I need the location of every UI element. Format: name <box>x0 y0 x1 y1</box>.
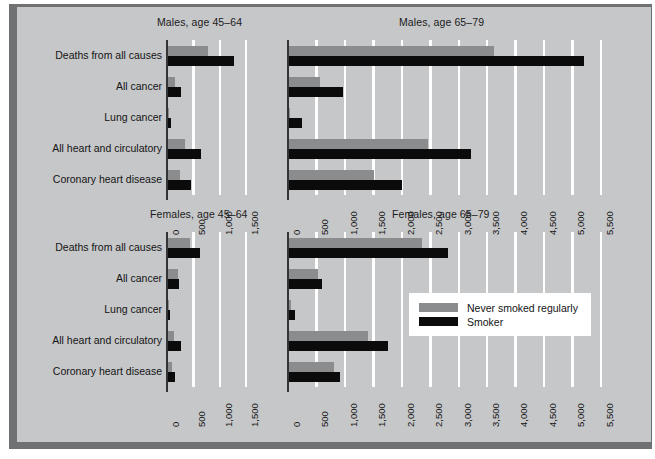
bar-smoker-males-45-64-3 <box>168 149 202 159</box>
x-tick-females-45-64-500: 500 <box>196 411 207 427</box>
x-tick-females-65-79-3500: 3,500 <box>490 403 501 427</box>
bar-never-smoked-males-45-64-2 <box>168 108 169 118</box>
bar-smoker-females-45-64-3 <box>168 341 181 351</box>
bar-group-males-45-64-0 <box>166 40 258 71</box>
bar-group-males-65-79-2 <box>287 102 614 133</box>
bar-group-males-65-79-3 <box>287 133 614 164</box>
bar-smoker-females-65-79-4 <box>289 372 340 382</box>
legend-swatch-icon-1 <box>419 317 458 326</box>
x-tick-females-65-79-500: 500 <box>319 411 330 427</box>
bar-never-smoked-males-65-79-1 <box>289 77 320 87</box>
chart-legend: Never smoked regularlySmoker <box>409 293 591 336</box>
bar-smoker-males-65-79-0 <box>289 56 585 66</box>
panel-title-males-65-79: Males, age 65–79 <box>399 16 484 28</box>
bar-smoker-males-65-79-2 <box>289 118 303 128</box>
bar-never-smoked-females-65-79-3 <box>289 331 369 341</box>
tickmark-males-65-79-0 <box>287 195 289 200</box>
panels-container: Males, age 45–64Deaths from all causesAl… <box>17 7 651 442</box>
bar-never-smoked-females-45-64-1 <box>168 269 178 279</box>
bar-group-males-65-79-1 <box>287 71 614 102</box>
bar-smoker-males-45-64-0 <box>168 56 235 66</box>
x-tick-females-65-79-3000: 3,000 <box>462 403 473 427</box>
bar-never-smoked-males-65-79-2 <box>289 108 291 118</box>
x-tick-females-45-64-1000: 1,000 <box>223 403 234 427</box>
panel-title-males-45-64: Males, age 45–64 <box>157 16 242 28</box>
bar-never-smoked-males-45-64-0 <box>168 46 208 56</box>
category-label-4: Coronary heart disease <box>53 173 162 185</box>
bar-never-smoked-females-45-64-2 <box>168 300 169 310</box>
bar-group-males-65-79-0 <box>287 40 614 71</box>
category-label-3: All heart and circulatory <box>52 334 162 346</box>
bar-group-females-45-64-2 <box>166 294 258 325</box>
bar-smoker-males-65-79-4 <box>289 180 403 190</box>
bar-smoker-females-45-64-2 <box>168 310 170 320</box>
category-label-0: Deaths from all causes <box>55 49 162 61</box>
legend-item-never-smoked-regularly: Never smoked regularly <box>419 301 578 314</box>
x-tick-females-65-79-1000: 1,000 <box>348 403 359 427</box>
legend-swatch-icon-0 <box>419 303 458 312</box>
category-label-4: Coronary heart disease <box>53 365 162 377</box>
bar-never-smoked-males-45-64-1 <box>168 77 175 87</box>
bar-never-smoked-females-45-64-0 <box>168 238 190 248</box>
bar-group-females-45-64-4 <box>166 356 258 387</box>
bar-smoker-females-65-79-2 <box>289 310 295 320</box>
bar-group-females-45-64-0 <box>166 232 258 263</box>
plot-axes-males-45-64 <box>166 40 258 195</box>
category-label-2: Lung cancer <box>104 303 162 315</box>
x-tick-females-65-79-1500: 1,500 <box>376 403 387 427</box>
legend-label-1: Smoker <box>467 316 503 328</box>
bar-group-males-45-64-2 <box>166 102 258 133</box>
bar-never-smoked-males-65-79-3 <box>289 139 428 149</box>
bar-group-males-45-64-1 <box>166 71 258 102</box>
figure-plot-area: Males, age 45–64Deaths from all causesAl… <box>17 7 651 442</box>
category-labels-females-45-64: Deaths from all causesAll cancerLung can… <box>20 232 162 387</box>
x-tick-females-45-64-1500: 1,500 <box>249 403 260 427</box>
category-label-1: All cancer <box>116 272 162 284</box>
bar-never-smoked-females-65-79-1 <box>289 269 319 279</box>
bar-smoker-males-65-79-1 <box>289 87 343 97</box>
bar-never-smoked-males-65-79-4 <box>289 170 374 180</box>
bar-never-smoked-females-65-79-0 <box>289 238 423 248</box>
plot-axes-males-65-79 <box>287 40 614 195</box>
tickmark-females-45-64-0 <box>166 387 168 392</box>
category-label-1: All cancer <box>116 80 162 92</box>
category-label-2: Lung cancer <box>104 111 162 123</box>
bar-group-females-45-64-3 <box>166 325 258 356</box>
tickmark-females-65-79-0 <box>287 387 289 392</box>
bar-group-females-65-79-1 <box>287 263 614 294</box>
chart-figure: Males, age 45–64Deaths from all causesAl… <box>0 0 655 459</box>
bar-group-males-45-64-4 <box>166 164 258 195</box>
bar-group-males-65-79-4 <box>287 164 614 195</box>
bar-smoker-males-45-64-2 <box>168 118 172 128</box>
bar-never-smoked-males-45-64-4 <box>168 170 181 180</box>
bar-smoker-females-45-64-4 <box>168 372 175 382</box>
bar-never-smoked-females-45-64-3 <box>168 331 175 341</box>
x-tick-females-65-79-5500: 5,500 <box>604 403 615 427</box>
legend-label-0: Never smoked regularly <box>467 302 578 314</box>
bar-smoker-females-45-64-1 <box>168 279 179 289</box>
bar-smoker-males-45-64-1 <box>168 87 182 97</box>
x-tick-females-45-64-0: 0 <box>170 422 181 427</box>
bar-never-smoked-males-65-79-0 <box>289 46 495 56</box>
bar-never-smoked-females-65-79-4 <box>289 362 334 372</box>
panel-title-females-45-64: Females, age 45–64 <box>150 208 248 220</box>
category-label-3: All heart and circulatory <box>52 142 162 154</box>
x-tick-females-65-79-2000: 2,000 <box>405 403 416 427</box>
panel-title-females-65-79: Females, age 65–79 <box>392 208 490 220</box>
bar-smoker-males-45-64-4 <box>168 180 191 190</box>
bar-smoker-males-65-79-3 <box>289 149 471 159</box>
x-tick-labels-females-45-64: 05001,0001,500 <box>166 387 258 431</box>
x-tick-labels-females-65-79: 05001,0001,5002,0002,5003,0003,5004,0004… <box>287 387 614 431</box>
tickmark-males-45-64-0 <box>166 195 168 200</box>
x-tick-females-65-79-2500: 2,500 <box>433 403 444 427</box>
x-tick-females-65-79-4500: 4,500 <box>547 403 558 427</box>
x-tick-females-65-79-0: 0 <box>291 422 302 427</box>
x-tick-females-65-79-4000: 4,000 <box>518 403 529 427</box>
bar-group-females-45-64-1 <box>166 263 258 294</box>
category-label-0: Deaths from all causes <box>55 241 162 253</box>
bar-group-males-45-64-3 <box>166 133 258 164</box>
legend-item-smoker: Smoker <box>419 315 578 328</box>
bar-never-smoked-males-45-64-3 <box>168 139 185 149</box>
bar-never-smoked-females-65-79-2 <box>289 300 291 310</box>
bar-smoker-females-65-79-0 <box>289 248 448 258</box>
